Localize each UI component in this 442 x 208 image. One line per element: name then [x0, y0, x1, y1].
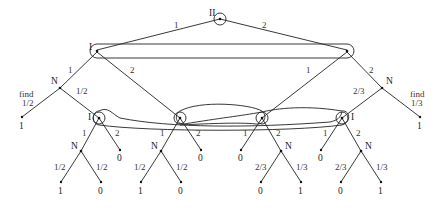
root-action-2-label: 2	[262, 20, 267, 30]
root-action-1-label: 1	[174, 20, 179, 30]
edge-root-action-1	[97, 19, 220, 50]
edge-left-I-action-2	[97, 52, 180, 118]
leaf-B-chance-left	[140, 181, 142, 183]
bottom-node-D	[341, 117, 344, 120]
root-player-label: II	[209, 8, 215, 18]
A-action-2-payoff: 0	[117, 153, 122, 163]
B-action-1-label: 1	[160, 128, 165, 138]
left-find-payoff: 1	[19, 121, 24, 131]
leaf-D-chance-right	[380, 181, 382, 183]
C-payoff-right: 1	[298, 186, 303, 196]
D-payoff-left: 0	[338, 186, 343, 196]
right-I-node	[346, 50, 349, 53]
A-chance-player-label: N	[71, 141, 78, 151]
bottom-information-set-curve-inner	[180, 104, 265, 125]
top-information-set	[90, 44, 354, 58]
C-chance-player-label: N	[285, 141, 292, 151]
A-action-2-label: 2	[115, 128, 120, 138]
right-find-payoff: 1	[417, 121, 422, 131]
leaf-A-action-2	[119, 149, 121, 151]
C-action-2-label: 2	[276, 128, 281, 138]
A-payoff-right: 0	[98, 186, 103, 196]
B-chance-prob-right: 1/2	[176, 162, 188, 172]
left-I-node	[96, 50, 99, 53]
chance-node-D	[360, 150, 363, 153]
C-action-1-label: 1	[243, 128, 248, 138]
chance-node-A	[80, 150, 83, 153]
right-chance-node	[381, 87, 384, 90]
B-chance-player-label: N	[151, 141, 158, 151]
leaf-C-action-1	[240, 149, 242, 151]
leaf-A-chance-left	[60, 181, 62, 183]
left-find-prob-label: 1/2	[22, 98, 34, 108]
leaf-D-chance-left	[340, 181, 342, 183]
B-chance-prob-left: 1/2	[134, 162, 146, 172]
C-chance-prob-left: 2/3	[255, 162, 267, 172]
D-payoff-right: 1	[378, 186, 383, 196]
A-chance-prob-right: 1/2	[96, 162, 108, 172]
D-action-1-label: 1	[323, 128, 328, 138]
A-action-1-label: 1	[82, 128, 87, 138]
bottom-information-set-curve-outer	[93, 111, 348, 130]
D-chance-player-label: N	[365, 141, 372, 151]
B-payoff-right: 0	[178, 186, 183, 196]
leaf-C-chance-left	[260, 181, 262, 183]
D-action-2-label: 2	[356, 128, 361, 138]
C-payoff-left: 0	[258, 186, 263, 196]
leaf-left-find	[21, 116, 23, 118]
leaf-B-action-2	[200, 149, 202, 151]
left-chance-player-label: N	[51, 76, 58, 86]
edge-root-action-2	[220, 19, 347, 50]
right-other-prob-label: 2/3	[353, 86, 365, 96]
left-I-action-1-label: 1	[68, 65, 73, 75]
leaf-B-chance-right	[180, 181, 182, 183]
edge-right-I-action-2	[347, 52, 382, 88]
game-tree-diagram: II 1 2 I 1 2 1 2 N find 1/2 1/2 1 N find…	[0, 0, 442, 208]
A-payoff-left: 1	[58, 186, 63, 196]
B-action-2-payoff: 0	[198, 153, 203, 163]
right-I-action-2-label: 2	[369, 65, 374, 75]
B-action-2-label: 2	[196, 128, 201, 138]
bottom-node-D-player-label: I	[351, 112, 354, 122]
B-payoff-left: 1	[138, 186, 143, 196]
edge-left-I-action-1	[60, 52, 97, 88]
C-action-1-payoff: 0	[238, 153, 243, 163]
leaf-C-chance-right	[300, 181, 302, 183]
leaf-D-action-1	[320, 149, 322, 151]
chance-node-C	[280, 150, 283, 153]
leaf-right-find	[419, 116, 421, 118]
chance-node-B	[160, 150, 163, 153]
left-other-prob-label: 1/2	[76, 86, 88, 96]
right-I-action-1-label: 1	[306, 65, 311, 75]
C-chance-prob-right: 1/3	[296, 162, 308, 172]
D-chance-prob-right: 1/3	[376, 162, 388, 172]
bottom-node-B	[179, 117, 182, 120]
leaf-A-chance-right	[100, 181, 102, 183]
right-chance-player-label: N	[386, 76, 393, 86]
right-find-prob-label: 1/3	[411, 98, 423, 108]
D-action-1-payoff: 0	[318, 153, 323, 163]
left-I-action-2-label: 2	[130, 65, 135, 75]
left-chance-node	[59, 87, 62, 90]
A-chance-prob-left: 1/2	[54, 162, 66, 172]
root-node	[219, 18, 222, 21]
bottom-node-C	[261, 117, 264, 120]
bottom-node-A	[98, 117, 101, 120]
left-I-player-label: I	[89, 42, 92, 52]
D-chance-prob-left: 2/3	[335, 162, 347, 172]
bottom-node-A-player-label: I	[88, 112, 91, 122]
